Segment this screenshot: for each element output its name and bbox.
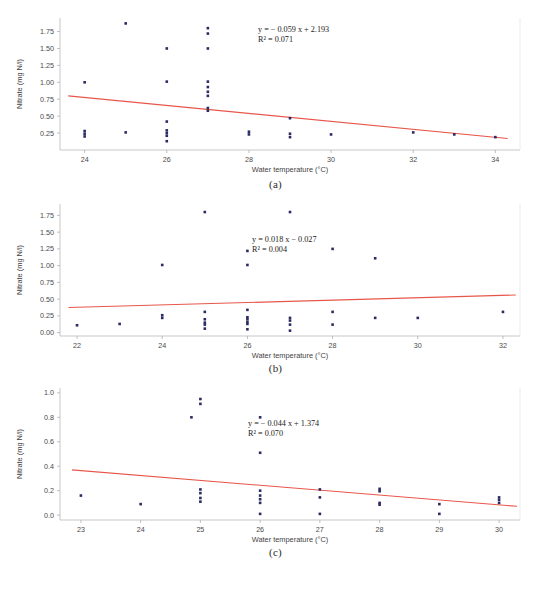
scatter-plot-c: 0.00.20.40.60.81.02324252627282930Water … [0, 374, 551, 546]
svg-text:34: 34 [491, 155, 499, 164]
svg-text:27: 27 [316, 525, 324, 534]
svg-text:Water temperature (°C): Water temperature (°C) [252, 165, 329, 174]
svg-text:0.25: 0.25 [40, 311, 54, 320]
svg-text:23: 23 [77, 525, 85, 534]
svg-text:y = − 0.059 x + 2.193: y = − 0.059 x + 2.193 [258, 25, 329, 34]
svg-text:y = 0.018 x − 0.027: y = 0.018 x − 0.027 [252, 235, 317, 244]
svg-text:1.50: 1.50 [40, 44, 54, 53]
panel-a: 0.250.500.751.001.251.501.75242628303234… [0, 0, 551, 190]
svg-text:1.25: 1.25 [40, 244, 54, 253]
svg-text:26: 26 [256, 525, 264, 534]
svg-text:y = − 0.044 x + 1.374: y = − 0.044 x + 1.374 [248, 419, 319, 428]
svg-text:28: 28 [329, 341, 337, 350]
svg-text:24: 24 [81, 155, 89, 164]
svg-text:1.00: 1.00 [40, 261, 54, 270]
svg-text:Nitrate (mg N/l): Nitrate (mg N/l) [15, 245, 24, 295]
svg-text:0.75: 0.75 [40, 278, 54, 287]
svg-text:26: 26 [163, 155, 171, 164]
scatter-plot-a: 0.250.500.751.001.251.501.75242628303234… [0, 0, 551, 178]
svg-text:Water temperature (°C): Water temperature (°C) [252, 535, 329, 544]
svg-text:28: 28 [245, 155, 253, 164]
svg-text:Nitrate (mg N/l): Nitrate (mg N/l) [15, 59, 24, 109]
svg-text:0.25: 0.25 [40, 129, 54, 138]
svg-text:1.50: 1.50 [40, 228, 54, 237]
svg-text:R² = 0.071: R² = 0.071 [258, 35, 293, 44]
svg-text:24: 24 [158, 341, 166, 350]
svg-text:29: 29 [435, 525, 443, 534]
svg-text:0.8: 0.8 [44, 413, 54, 422]
svg-text:30: 30 [327, 155, 335, 164]
svg-text:0.50: 0.50 [40, 295, 54, 304]
svg-text:26: 26 [243, 341, 251, 350]
svg-text:1.75: 1.75 [40, 211, 54, 220]
panel-b: 0.000.250.500.751.001.251.501.7522242628… [0, 190, 551, 374]
svg-text:22: 22 [73, 341, 81, 350]
svg-text:1.00: 1.00 [40, 78, 54, 87]
svg-text:25: 25 [196, 525, 204, 534]
svg-text:0.75: 0.75 [40, 95, 54, 104]
svg-text:0.2: 0.2 [44, 486, 54, 495]
scatter-plot-b: 0.000.250.500.751.001.251.501.7522242628… [0, 190, 551, 362]
svg-text:0.0: 0.0 [44, 511, 54, 520]
panel-caption-b: (b) [0, 362, 551, 374]
svg-text:0.00: 0.00 [40, 328, 54, 337]
svg-text:1.25: 1.25 [40, 61, 54, 70]
panel-caption-c: (c) [0, 546, 551, 558]
svg-text:0.4: 0.4 [44, 462, 54, 471]
svg-text:1.75: 1.75 [40, 27, 54, 36]
svg-text:24: 24 [137, 525, 145, 534]
svg-text:30: 30 [414, 341, 422, 350]
panel-c: 0.00.20.40.60.81.02324252627282930Water … [0, 374, 551, 558]
figure-root: 0.250.500.751.001.251.501.75242628303234… [0, 0, 551, 615]
svg-text:R² = 0.070: R² = 0.070 [248, 429, 283, 438]
svg-text:1.0: 1.0 [44, 388, 54, 397]
svg-text:28: 28 [376, 525, 384, 534]
svg-text:Water temperature (°C): Water temperature (°C) [252, 351, 329, 360]
svg-text:32: 32 [499, 341, 507, 350]
panel-caption-a: (a) [0, 178, 551, 190]
svg-text:32: 32 [409, 155, 417, 164]
svg-text:0.6: 0.6 [44, 437, 54, 446]
svg-text:0.50: 0.50 [40, 112, 54, 121]
svg-text:R² = 0.004: R² = 0.004 [252, 245, 287, 254]
svg-text:Nitrate (mg N/l): Nitrate (mg N/l) [15, 429, 24, 479]
svg-text:30: 30 [495, 525, 503, 534]
